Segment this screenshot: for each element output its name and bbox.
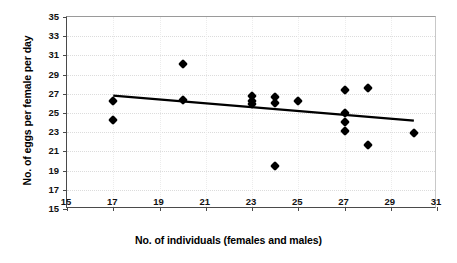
x-axis-tick-label: 15 (46, 196, 86, 207)
y-axis-tick-label: 25 (19, 107, 59, 118)
x-axis-tick-label: 19 (139, 196, 179, 207)
y-axis-tick-label: 33 (19, 30, 59, 41)
x-axis-tick-label: 25 (277, 196, 317, 207)
x-axis-tick-label: 17 (92, 196, 132, 207)
y-axis-tick-label: 19 (19, 164, 59, 175)
x-axis-tick (391, 207, 392, 211)
x-axis-tick (298, 207, 299, 211)
x-axis-tick (160, 207, 161, 211)
x-axis-tick-label: 23 (231, 196, 271, 207)
y-axis-tick-label: 35 (19, 11, 59, 22)
y-axis-tick-label: 21 (19, 145, 59, 156)
y-axis-tick-label: 31 (19, 49, 59, 60)
x-axis-tick-label: 29 (370, 196, 410, 207)
y-axis-tick-label: 23 (19, 126, 59, 137)
trend-line (67, 17, 435, 207)
x-axis-title: No. of individuals (females and males) (0, 234, 457, 246)
y-axis-tick-label: 27 (19, 87, 59, 98)
x-axis-tick (206, 207, 207, 211)
x-axis-tick (437, 207, 438, 211)
x-axis-tick (252, 207, 253, 211)
x-axis-tick-label: 21 (185, 196, 225, 207)
x-axis-tick-label: 27 (324, 196, 364, 207)
trend-line-segment (113, 96, 414, 121)
y-axis-tick-label: 17 (19, 183, 59, 194)
y-axis-tick-label: 29 (19, 68, 59, 79)
x-axis-tick (113, 207, 114, 211)
plot-area (66, 16, 436, 208)
x-axis-tick (345, 207, 346, 211)
x-axis-tick-label: 31 (416, 196, 456, 207)
x-axis-tick (67, 207, 68, 211)
scatter-chart-figure: No. of eggs per female per day 151719212… (0, 0, 457, 263)
